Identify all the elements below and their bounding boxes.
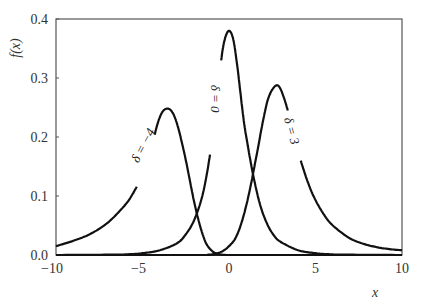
chart: 0.00.10.20.30.4 −10−50510 δ = −4δ = 0δ =… xyxy=(0,0,422,304)
y-axis-title: f(x) xyxy=(8,38,24,58)
x-tick-label: 0 xyxy=(226,261,233,276)
x-axis-title: x xyxy=(371,285,379,300)
curve-series-1 xyxy=(221,31,402,255)
y-tick-label: 0.1 xyxy=(31,189,49,204)
curve-labels: δ = −4δ = 0δ = 3 xyxy=(128,85,303,165)
x-tick-label: −5 xyxy=(131,261,146,276)
curves xyxy=(56,31,402,255)
curve-series-0 xyxy=(155,109,402,255)
x-tick-label: −10 xyxy=(41,261,63,276)
curve-label-2: δ = 3 xyxy=(281,115,303,146)
x-tick-label: 10 xyxy=(395,261,409,276)
curve-series-2 xyxy=(301,161,402,251)
x-axis-ticks: −10−50510 xyxy=(41,261,409,276)
x-tick-label: 5 xyxy=(312,261,319,276)
curve-label-1: δ = 0 xyxy=(208,85,223,113)
plot-frame xyxy=(56,19,402,255)
y-axis-ticks: 0.00.10.20.30.4 xyxy=(31,12,60,263)
y-tick-label: 0.2 xyxy=(31,130,49,145)
y-tick-label: 0.3 xyxy=(31,71,49,86)
curve-series-0 xyxy=(56,187,137,247)
plot-border xyxy=(56,19,402,255)
y-tick-label: 0.4 xyxy=(31,12,49,27)
curve-label-0: δ = −4 xyxy=(128,125,159,165)
